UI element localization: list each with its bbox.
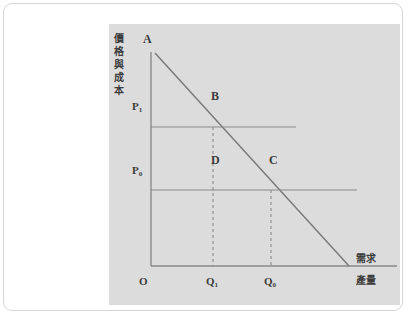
y-axis-title-char-3: 與 bbox=[114, 58, 124, 71]
point-label-a: A bbox=[143, 33, 152, 45]
price-label-p0: P0 bbox=[132, 165, 142, 176]
origin-label: O bbox=[139, 276, 148, 287]
price-label-p1: P1 bbox=[132, 101, 142, 112]
point-label-d: D bbox=[211, 154, 220, 166]
quantity-label-q0: Q0 bbox=[264, 276, 276, 287]
point-label-c: C bbox=[269, 154, 278, 166]
y-axis-title: 價 格 與 成 本 bbox=[112, 32, 126, 97]
demand-curve-line bbox=[155, 53, 349, 266]
y-axis-title-char-4: 成 bbox=[114, 71, 124, 84]
x-axis-title: 產量 bbox=[356, 276, 376, 286]
y-axis-title-char-1: 價 bbox=[114, 32, 124, 45]
point-label-b: B bbox=[211, 90, 219, 102]
y-axis-title-char-2: 格 bbox=[114, 45, 124, 58]
document-frame: 價 格 與 成 本 A B C D P1 P0 Q1 Q0 O 需求 產量 bbox=[3, 3, 403, 311]
demand-curve-label: 需求 bbox=[356, 254, 376, 264]
quantity-label-q1: Q1 bbox=[206, 276, 218, 287]
y-axis-title-char-5: 本 bbox=[114, 84, 124, 97]
